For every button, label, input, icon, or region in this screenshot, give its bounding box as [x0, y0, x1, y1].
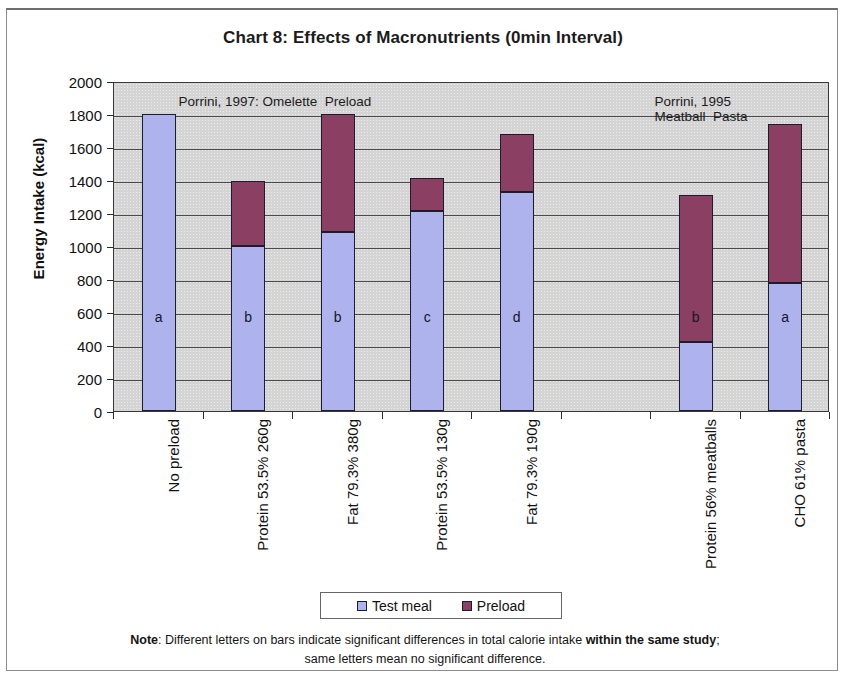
- y-axis-tick-label: 0: [94, 404, 102, 421]
- stacked-bar: b: [321, 114, 355, 411]
- x-axis-tick: [292, 412, 293, 419]
- grid-line: [114, 314, 828, 315]
- y-axis-tick: [107, 346, 114, 347]
- plot-annotation: Meatball Pasta: [655, 109, 748, 124]
- y-axis-tick: [107, 82, 114, 83]
- x-axis-tick: [740, 412, 741, 419]
- stacked-bar: a: [768, 124, 802, 411]
- y-axis-tick: [107, 115, 114, 116]
- chart-legend: Test meal Preload: [320, 592, 562, 619]
- bar-segment-preload: [321, 114, 355, 232]
- grid-line: [114, 248, 828, 249]
- bar-significance-letter: b: [321, 309, 355, 325]
- bar-segment-test-meal: [768, 283, 802, 411]
- legend-label-test-meal: Test meal: [372, 598, 432, 614]
- y-axis-tick: [107, 313, 114, 314]
- grid-line: [114, 380, 828, 381]
- y-axis-tick: [107, 379, 114, 380]
- x-axis-tick: [471, 412, 472, 419]
- x-axis-tick: [382, 412, 383, 419]
- y-axis-tick-label: 1000: [69, 239, 102, 256]
- footnote-line-1: Note: Different letters on bars indicate…: [30, 630, 820, 650]
- grid-line: [114, 347, 828, 348]
- x-axis-category-label: Protein 56% meatballs: [702, 419, 719, 569]
- x-axis-category-label: No preload: [165, 419, 182, 492]
- bar-significance-letter: a: [768, 309, 802, 325]
- x-axis-tick: [650, 412, 651, 419]
- plot-wrapper: abbcdbaPorrini, 1997: Omelette PreloadPo…: [113, 82, 829, 412]
- x-axis-category-label: Protein 53.5% 130g: [433, 419, 450, 551]
- x-axis-tick: [561, 412, 562, 419]
- chart-page: Chart 8: Effects of Macronutrients (0min…: [0, 0, 846, 677]
- footnote-note-lead: Note: [130, 633, 158, 647]
- legend-item-test-meal: Test meal: [357, 598, 432, 614]
- plot-annotation: Porrini, 1997: Omelette Preload: [178, 94, 371, 109]
- x-axis-tick: [113, 412, 114, 419]
- stacked-bar: a: [142, 114, 176, 411]
- stacked-bar: c: [410, 178, 444, 411]
- bar-segment-preload: [410, 178, 444, 212]
- y-axis-tick-label: 1800: [69, 107, 102, 124]
- bar-segment-test-meal: [679, 342, 713, 411]
- legend-item-preload: Preload: [462, 598, 525, 614]
- bar-segment-preload: [231, 181, 265, 246]
- bar-segment-test-meal: [231, 246, 265, 411]
- bar-segment-test-meal: [142, 114, 176, 411]
- y-axis-tick-label: 1200: [69, 206, 102, 223]
- bar-segment-preload: [768, 124, 802, 283]
- y-axis-tick: [107, 247, 114, 248]
- x-axis-category-label: CHO 61% pasta: [791, 419, 808, 527]
- plot-annotation: Porrini, 1995: [655, 94, 732, 109]
- y-axis-tick: [107, 181, 114, 182]
- grid-line: [114, 215, 828, 216]
- x-axis-category-label: Protein 53.5% 260g: [254, 419, 271, 551]
- grid-line: [114, 281, 828, 282]
- bar-significance-letter: c: [410, 309, 444, 325]
- grid-line: [114, 182, 828, 183]
- grid-line: [114, 149, 828, 150]
- bar-significance-letter: b: [679, 309, 713, 325]
- bar-segment-preload: [500, 134, 534, 193]
- x-axis-tick: [203, 412, 204, 419]
- plot-area: abbcdbaPorrini, 1997: Omelette PreloadPo…: [113, 82, 829, 412]
- y-axis-tick: [107, 280, 114, 281]
- bar-significance-letter: d: [500, 309, 534, 325]
- footnote-text-a: : Different letters on bars indicate sig…: [158, 633, 586, 647]
- y-axis-tick-label: 200: [77, 371, 102, 388]
- bar-significance-letter: b: [231, 309, 265, 325]
- y-axis-tick-label: 800: [77, 272, 102, 289]
- y-axis-label: Energy Intake (kcal): [30, 79, 47, 339]
- y-axis-tick: [107, 148, 114, 149]
- legend-swatch-preload-icon: [462, 601, 472, 611]
- stacked-bar: b: [231, 181, 265, 411]
- bar-significance-letter: a: [142, 309, 176, 325]
- x-axis-category-label: Fat 79.3% 380g: [344, 419, 361, 525]
- chart-title: Chart 8: Effects of Macronutrients (0min…: [0, 28, 846, 48]
- footnote-text-b: ;: [716, 633, 719, 647]
- y-axis-tick-label: 1400: [69, 173, 102, 190]
- y-axis-tick: [107, 214, 114, 215]
- y-axis-tick-label: 600: [77, 305, 102, 322]
- y-axis-tick-label: 1600: [69, 140, 102, 157]
- legend-label-preload: Preload: [477, 598, 525, 614]
- bar-segment-test-meal: [500, 192, 534, 411]
- footnote-line-2: same letters mean no significant differe…: [30, 652, 820, 666]
- plot-texture: [114, 83, 828, 411]
- y-axis-tick-label: 400: [77, 338, 102, 355]
- footnote-emphasis: within the same study: [586, 633, 717, 647]
- y-axis-tick-label: 2000: [69, 74, 102, 91]
- legend-swatch-test-meal-icon: [357, 601, 367, 611]
- x-axis-category-label: Fat 79.3% 190g: [523, 419, 540, 525]
- stacked-bar: d: [500, 134, 534, 411]
- x-axis-tick: [829, 412, 830, 419]
- x-axis-labels: No preloadProtein 53.5% 260gFat 79.3% 38…: [113, 419, 829, 594]
- stacked-bar: b: [679, 195, 713, 411]
